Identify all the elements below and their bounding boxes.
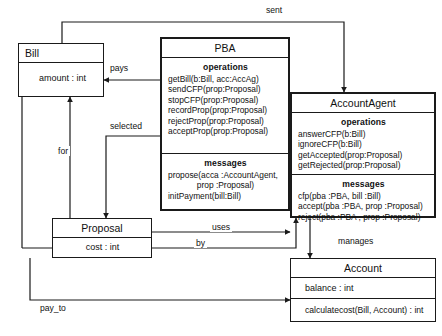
edge-label-manages: manages [336,236,375,246]
class-title-bill: Bill [19,44,103,63]
operation-row: calculatecost(Bill, Account) : int [297,304,430,317]
class-attributes-bill: amount : int [19,63,103,89]
attribute-row: cost : int [59,241,146,254]
class-messages-pba: messages propose(acca :AccountAgent, pro… [162,154,288,205]
class-title-pba: PBA [162,39,288,58]
edge-pay-to [30,258,290,300]
attribute-row: amount : int [25,72,98,85]
message-row: accept(pba :PBA, prop :Proposal) [298,201,429,211]
operations-header: operations [298,117,429,127]
class-messages-accountagent: messages cfp(pba :PBA, bill :Bill) accep… [292,175,434,226]
message-row: initPayment(bill:Bill) [168,191,283,201]
edge-label-sent: sent [264,5,284,15]
edge-label-for: for [56,146,70,156]
messages-header: messages [298,179,429,189]
operation-row: sendCFP(prop:Proposal) [168,84,283,94]
class-title-accountagent: AccountAgent [292,94,434,113]
edge-label-uses: uses [210,222,232,232]
operation-row: acceptProp(prop:Proposal) [168,126,283,136]
class-title-account: Account [291,259,435,278]
operation-row: getBill(b:Bill, acc:AccAg) [168,74,283,84]
operation-row: getRejected(prop:Proposal) [298,160,429,170]
edge-label-pays: pays [108,63,130,73]
class-operations-account: calculatecost(Bill, Account) : int [291,299,435,321]
message-row-cont: prop :Proposal) [168,180,283,190]
class-box-pba[interactable]: PBA operations getBill(b:Bill, acc:AccAg… [160,37,290,211]
uml-class-diagram: Bill amount : int PBA operations getBill… [0,0,442,336]
attribute-row: balance : int [297,282,430,295]
class-box-bill[interactable]: Bill amount : int [18,43,104,97]
operation-row: getAccepted(prop:Proposal) [298,150,429,160]
operation-row: answerCFP(b:Bill) [298,129,429,139]
operation-row: recordProp(prop:Proposal) [168,105,283,115]
operation-row: ignoreCFP(b:Bill) [298,139,429,149]
edge-label-selected: selected [108,121,144,131]
class-title-proposal: Proposal [53,219,151,238]
message-row: propose(acca :AccountAgent, [168,170,283,180]
edge-selected [106,136,160,218]
operations-header: operations [168,62,283,72]
message-row: cfp(pba :PBA, bill :Bill) [298,191,429,201]
message-row: reject(pba :PBA , prop :Proposal) [298,212,429,222]
class-attributes-proposal: cost : int [53,238,151,258]
class-operations-accountagent: operations answerCFP(b:Bill) ignoreCFP(b… [292,113,434,175]
class-operations-pba: operations getBill(b:Bill, acc:AccAg) se… [162,58,288,154]
operation-row: rejectProp(prop:Proposal) [168,116,283,126]
class-attributes-account: balance : int [291,278,435,299]
edge-label-pay-to: pay_to [38,303,68,313]
class-box-proposal[interactable]: Proposal cost : int [52,218,152,258]
edge-label-by: by [194,238,207,248]
messages-header: messages [168,158,283,168]
operation-row: stopCFP(prop:Proposal) [168,95,283,105]
class-box-accountagent[interactable]: AccountAgent operations answerCFP(b:Bill… [290,92,436,218]
class-box-account[interactable]: Account balance : int calculatecost(Bill… [290,258,436,322]
